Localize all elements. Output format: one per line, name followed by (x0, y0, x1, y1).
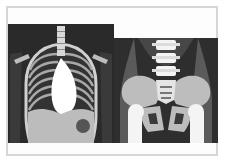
pelvis-xray-graphic (114, 38, 218, 143)
chest-xray-image (8, 24, 114, 143)
chest-xray-graphic (8, 24, 114, 143)
pelvis-xray-image (114, 38, 218, 143)
